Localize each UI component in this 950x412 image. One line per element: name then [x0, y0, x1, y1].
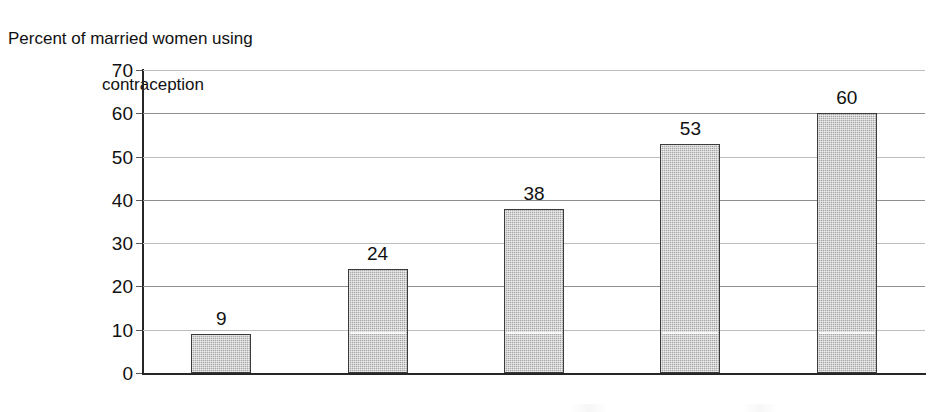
y-tick-70 — [136, 70, 142, 71]
bar-value-label-1960: 9 — [181, 309, 261, 328]
y-tick-0 — [136, 373, 142, 374]
y-axis-label-20: 20 — [91, 277, 133, 296]
y-tick-60 — [136, 113, 142, 114]
y-axis-label-0: 0 — [91, 364, 133, 383]
gridline-70 — [143, 70, 925, 71]
bar-value-label-1980: 38 — [494, 184, 574, 203]
y-axis-label-50: 50 — [91, 148, 133, 167]
bar-late-1990s[interactable] — [817, 113, 877, 373]
y-tick-30 — [136, 243, 142, 244]
y-tick-50 — [136, 157, 142, 158]
bar-value-label-1990: 53 — [650, 119, 730, 138]
y-axis-label-60: 60 — [91, 104, 133, 123]
y-axis-label-70: 70 — [91, 61, 133, 80]
y-axis-label-10: 10 — [91, 321, 133, 340]
bar-1970[interactable] — [348, 269, 408, 373]
bar-1990[interactable] — [660, 144, 720, 373]
y-axis-label-40: 40 — [91, 191, 133, 210]
scan-artifact-band — [0, 404, 950, 412]
y-tick-40 — [136, 200, 142, 201]
plot-area: 0102030405060709196024197038198053199060… — [143, 70, 925, 373]
gridline-50 — [143, 157, 925, 158]
x-axis-line — [142, 373, 926, 375]
bar-1960[interactable] — [191, 334, 251, 373]
chart-title-line-1: Percent of married women using — [8, 27, 298, 50]
bar-chart: Percent of married women using contracep… — [0, 0, 950, 412]
gridline-60 — [143, 113, 925, 114]
bar-value-label-1970: 24 — [338, 244, 418, 263]
bar-1980[interactable] — [504, 209, 564, 373]
y-axis-label-30: 30 — [91, 234, 133, 253]
y-tick-20 — [136, 286, 142, 287]
bar-value-label-late-1990s: 60 — [807, 88, 887, 107]
y-tick-10 — [136, 330, 142, 331]
